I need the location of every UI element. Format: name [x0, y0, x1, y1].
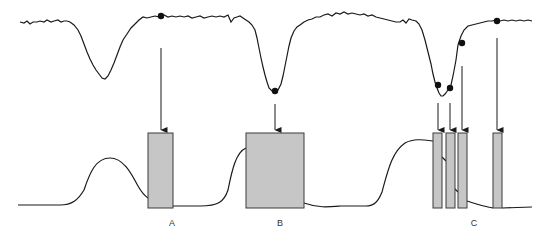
label-c: C	[471, 218, 478, 228]
sample-marker	[158, 13, 164, 19]
sample-marker	[447, 85, 453, 91]
diagram-canvas: A B C	[0, 0, 547, 237]
sample-bar-b	[246, 133, 304, 208]
label-b: B	[277, 218, 283, 228]
sample-marker	[435, 82, 441, 88]
sample-marker	[494, 18, 500, 24]
top-signal-trace	[20, 12, 532, 96]
sample-bar-c4	[493, 133, 502, 208]
group-c: C	[433, 133, 502, 228]
sample-marker	[459, 40, 465, 46]
group-b: B	[246, 133, 304, 228]
label-a: A	[169, 218, 175, 228]
sample-bar-c3	[458, 133, 467, 208]
sample-bar-c1	[433, 133, 442, 208]
sample-bar-c2	[446, 133, 455, 208]
sample-marker	[272, 88, 278, 94]
group-a: A	[148, 133, 175, 228]
sample-bar-a	[148, 133, 173, 208]
